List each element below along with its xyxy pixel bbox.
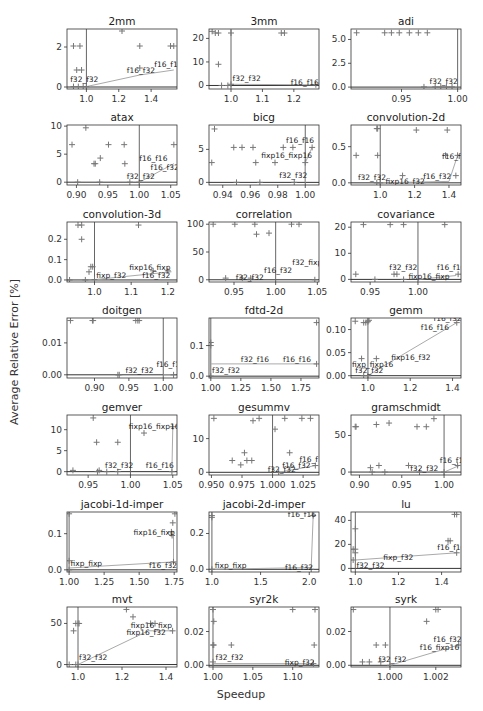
config-label: f32_f32 <box>212 366 240 375</box>
y-tick-label: 0.02 <box>184 627 204 637</box>
subplot-mvt: mvtfixp16_fixpfixp16_f32f32_f321.01.21.4… <box>51 593 177 682</box>
plus-marker-icon <box>136 318 142 324</box>
y-tick-label: 0.10 <box>326 325 346 335</box>
x-tick-label: 1.50 <box>261 383 281 393</box>
plus-marker-icon <box>234 179 240 185</box>
plus-marker-icon <box>413 127 419 133</box>
x-tick-label: 0.96 <box>240 190 260 200</box>
x-tick-label: 0.98 <box>268 190 288 200</box>
x-tick-label: 0.95 <box>119 383 139 393</box>
plus-marker-icon <box>122 161 128 167</box>
plus-marker-icon <box>360 222 366 228</box>
x-tick-label: 1.5 <box>253 577 267 587</box>
subplot-gramschmidt: gramschmidtf32_f32f16_f160.900.951.00050 <box>335 401 469 490</box>
x-tick-label: 1.0 <box>348 577 363 587</box>
x-tick-label: 1.0 <box>361 383 376 393</box>
config-label: f16_f32 <box>285 563 313 572</box>
plus-marker-icon <box>249 458 255 464</box>
y-tick-label: 0.0 <box>48 565 63 575</box>
y-tick-label: 5 <box>56 149 62 159</box>
plus-marker-icon <box>77 43 83 49</box>
plus-marker-icon <box>94 439 100 445</box>
config-label: f32_f32 <box>233 74 261 83</box>
config-label: fixp_fixp <box>215 561 247 570</box>
config-label: fixp16_f32 <box>391 353 431 362</box>
subplot-title: gemm <box>389 304 423 316</box>
x-tick-label: 2.0 <box>302 577 317 587</box>
plus-marker-icon <box>76 620 82 626</box>
plus-marker-icon <box>90 415 96 421</box>
config-label: f16_fixp16 <box>420 643 460 652</box>
x-tick-label: 1.00 <box>153 383 173 393</box>
x-tick-label: 1.05 <box>163 480 183 490</box>
y-tick-label: 0 <box>198 275 204 285</box>
plus-marker-icon <box>382 30 388 36</box>
subplot-gemm: gemmf16_f32f16_f16fixp16_f32fixp_fixp16f… <box>326 304 462 393</box>
subplot-title: gemver <box>102 401 143 413</box>
y-tick-label: 0 <box>340 563 346 573</box>
plus-marker-icon <box>210 607 216 613</box>
y-tick-label: 0.2 <box>190 528 204 538</box>
x-tick-label: 1.1 <box>124 287 138 297</box>
y-tick-label: 20 <box>335 539 347 549</box>
plus-marker-icon <box>225 82 231 88</box>
plus-marker-icon <box>97 155 103 161</box>
plus-marker-icon <box>239 144 245 150</box>
config-label: f32_f32 <box>79 653 107 662</box>
x-tick-label: 0.90 <box>349 480 369 490</box>
plus-marker-icon <box>354 30 360 36</box>
x-tick-label: 1.00 <box>120 480 140 490</box>
y-tick-label: 0.0 <box>332 82 347 92</box>
y-tick-label: 0 <box>56 467 62 477</box>
plus-marker-icon <box>441 469 447 475</box>
plus-marker-icon <box>424 618 430 624</box>
x-tick-label: 0.975 <box>229 480 255 490</box>
plus-marker-icon <box>299 415 305 421</box>
plus-marker-icon <box>219 82 225 88</box>
y-tick-label: 10 <box>193 434 205 444</box>
x-tick-label: 1.2 <box>161 287 175 297</box>
x-tick-label: 1.4 <box>159 672 174 682</box>
plus-marker-icon <box>423 424 429 430</box>
plus-marker-icon <box>372 276 378 282</box>
x-tick-label: 1.05 <box>243 672 263 682</box>
y-tick-label: 0 <box>340 274 346 284</box>
x-tick-label: 1.0 <box>79 94 94 104</box>
x-tick-label: 1.0 <box>87 287 102 297</box>
x-tick-label: 1.2 <box>391 577 405 587</box>
config-label: fixp_f32 <box>383 553 413 562</box>
y-tick-label: 40 <box>335 515 347 525</box>
x-tick-label: 1.00 <box>201 383 221 393</box>
x-tick-label: 1.00 <box>448 94 468 104</box>
plus-marker-icon <box>401 276 407 282</box>
config-label: fixp16_fixp <box>408 272 449 281</box>
config-label: f32_f32 <box>70 75 98 84</box>
y-tick-label: 10 <box>51 121 63 131</box>
subplot-title: syr2k <box>250 593 280 605</box>
config-label: f32_f16 <box>241 355 269 364</box>
y-tick-label: 5.0 <box>332 34 347 44</box>
y-tick-label: 0.02 <box>326 627 346 637</box>
plus-marker-icon <box>366 659 372 665</box>
x-tick-label: 1.25 <box>94 577 114 587</box>
subplot-title: fdtd-2d <box>245 304 283 316</box>
y-tick-label: 0.00 <box>184 660 204 670</box>
config-label: f32_f32 <box>215 653 243 662</box>
subplot-title: adi <box>398 15 414 27</box>
config-label: f16_f32 <box>423 172 451 181</box>
subplot-3mm: 3mmf32_f32f16_f161.01.11.201020 <box>193 15 320 104</box>
plus-marker-icon <box>228 30 234 36</box>
plus-marker-icon <box>388 30 394 36</box>
plus-marker-icon <box>70 43 76 49</box>
plus-marker-icon <box>373 422 379 428</box>
plus-marker-icon <box>415 30 421 36</box>
x-tick-label: 1.2 <box>115 672 129 682</box>
y-tick-label: 0.0 <box>190 371 205 381</box>
y-tick-label: 0 <box>56 177 62 187</box>
plus-marker-icon <box>442 222 448 228</box>
plus-marker-icon <box>281 30 287 36</box>
subplot-convolution-2d: convolution-2df16_f16f32_f32fixp16_f32f1… <box>332 111 471 200</box>
config-label: f16_f32 <box>142 271 170 280</box>
y-tick-label: 0 <box>56 660 62 670</box>
y-tick-label: 0.0 <box>332 178 347 188</box>
